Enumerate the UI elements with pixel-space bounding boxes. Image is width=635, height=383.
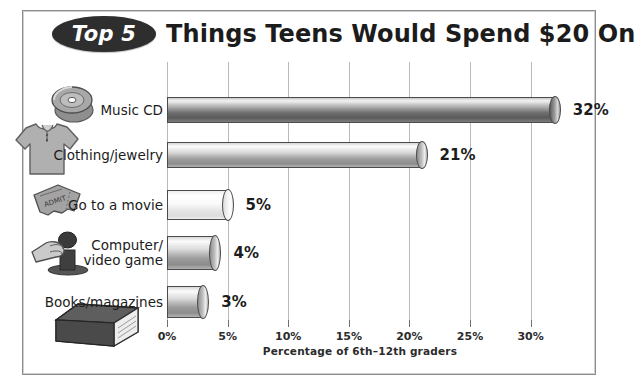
category-label: Go to a movie xyxy=(68,198,163,213)
x-tick-label: 5% xyxy=(218,330,237,343)
x-tick-label: 25% xyxy=(457,330,483,343)
x-tick-label: 15% xyxy=(336,330,362,343)
x-tick-label: 10% xyxy=(275,330,301,343)
bar-go-to-a-movie xyxy=(167,190,240,220)
bar-body xyxy=(167,142,422,168)
bar-end-cap xyxy=(416,141,428,169)
x-tick-mark xyxy=(470,320,471,327)
bar-value-label: 4% xyxy=(233,244,258,262)
bar-body xyxy=(167,97,555,123)
category-label: Books/magazines xyxy=(45,295,163,310)
x-tick-mark xyxy=(228,320,229,327)
category-label: Music CD xyxy=(100,103,163,118)
bar-end-cap xyxy=(222,189,234,221)
category-labels: Music CDClothing/jewelryGo to a movieCom… xyxy=(30,0,163,383)
category-label: Computer/ video game xyxy=(84,238,163,268)
plot-area: 0%5%10%15%20%25%30%32%21%5%4%3% xyxy=(167,62,553,320)
x-tick-mark xyxy=(409,320,410,327)
bar-computer-video-game xyxy=(167,236,227,270)
bar-music-cd xyxy=(167,97,567,123)
bar-clothing-jewelry xyxy=(167,142,434,168)
bar-end-cap xyxy=(549,96,561,124)
category-label: Clothing/jewelry xyxy=(54,148,163,163)
bar-body xyxy=(167,236,215,270)
x-tick-mark xyxy=(288,320,289,327)
x-tick-label: 30% xyxy=(517,330,543,343)
x-tick-mark xyxy=(531,320,532,327)
bar-body xyxy=(167,190,228,220)
bar-value-label: 3% xyxy=(221,293,246,311)
page-title: Things Teens Would Spend $20 On xyxy=(166,20,635,48)
bar-end-cap xyxy=(197,285,209,319)
bar-value-label: 32% xyxy=(573,101,609,119)
x-tick-mark xyxy=(167,320,168,327)
bar-value-label: 21% xyxy=(440,146,476,164)
bar-end-cap xyxy=(209,235,221,271)
bar-value-label: 5% xyxy=(246,196,271,214)
x-tick-label: 0% xyxy=(158,330,177,343)
x-tick-mark xyxy=(349,320,350,327)
x-tick-label: 20% xyxy=(396,330,422,343)
x-axis-title: Percentage of 6th–12th graders xyxy=(167,345,553,357)
bar-books-magazines xyxy=(167,286,215,318)
